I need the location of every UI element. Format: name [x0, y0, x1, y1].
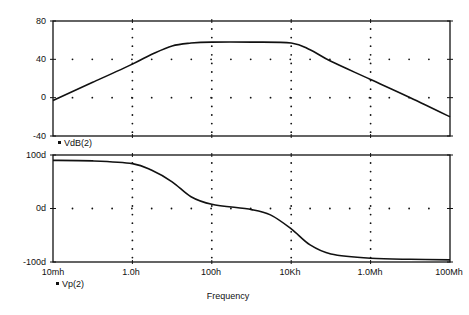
- upper-y-tick-minus40: -40: [33, 131, 46, 141]
- trace-vp-2-: [53, 160, 450, 260]
- legend-marker-vdb: [58, 141, 61, 144]
- legend-vp: Vp(2): [62, 279, 84, 289]
- magnitude-plot: [50, 19, 453, 138]
- x-tick-1h: 1.0h: [122, 267, 140, 277]
- upper-y-tick-0: 0: [41, 92, 46, 102]
- x-tick-100mh: 100Mh: [435, 267, 463, 277]
- phase-plot: [50, 153, 453, 264]
- bode-plot: 80 40 0 -40 VdB(2) 100d 0d -100d 10mh 1.…: [0, 0, 469, 315]
- x-axis-title: Frequency: [207, 291, 250, 301]
- lower-y-tick-minus100d: -100d: [23, 257, 46, 267]
- legend-marker-vp: [56, 282, 59, 285]
- legend-vdb: VdB(2): [64, 138, 92, 148]
- upper-y-tick-40: 40: [36, 54, 46, 64]
- lower-y-tick-0d: 0d: [36, 203, 46, 213]
- magnitude-frame: [53, 21, 450, 136]
- x-tick-10kh: 10Kh: [279, 267, 300, 277]
- x-tick-1mh: 1.0Mh: [357, 267, 382, 277]
- upper-y-tick-80: 80: [36, 16, 46, 26]
- lower-y-tick-100d: 100d: [26, 150, 46, 160]
- x-tick-100h: 100h: [201, 267, 221, 277]
- x-tick-10mh: 10mh: [42, 267, 65, 277]
- trace-vdb-2-: [53, 42, 450, 117]
